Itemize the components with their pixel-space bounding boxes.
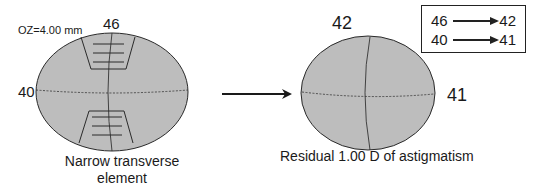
right-horizontal-value: 41 bbox=[447, 86, 467, 104]
left-vertical-value: 46 bbox=[103, 16, 120, 31]
legend-row: 40 41 bbox=[422, 31, 525, 49]
left-caption: Narrow transverse element bbox=[58, 153, 186, 187]
legend-row: 46 42 bbox=[422, 12, 525, 30]
left-cornea-ellipse bbox=[36, 33, 188, 151]
legend-to-value: 42 bbox=[499, 12, 516, 29]
right-vertical-value: 42 bbox=[332, 14, 352, 32]
left-caption-line2: element bbox=[58, 170, 186, 187]
left-caption-line1: Narrow transverse bbox=[58, 153, 186, 170]
legend-from-value: 40 bbox=[431, 31, 448, 48]
legend-to-value: 41 bbox=[499, 31, 516, 48]
right-caption: Residual 1.00 D of astigmatism bbox=[280, 149, 474, 163]
arrow-right-icon bbox=[453, 39, 497, 41]
legend-from-value: 46 bbox=[431, 12, 448, 29]
optical-zone-label: OZ=4.00 mm bbox=[18, 25, 83, 36]
right-cornea-ellipse bbox=[301, 36, 435, 150]
left-horizontal-value: 40 bbox=[18, 84, 35, 99]
arrow-right-icon bbox=[453, 20, 497, 22]
legend-box: 46 42 40 41 bbox=[421, 5, 526, 53]
